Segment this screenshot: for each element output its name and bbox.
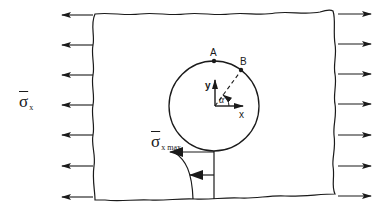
applied-stress-subscript: x bbox=[29, 103, 33, 112]
max-stress-label: σx max bbox=[151, 132, 181, 152]
y-axis-label: y bbox=[205, 80, 211, 91]
angle-alpha-label: α bbox=[219, 94, 225, 105]
point-b-marker bbox=[239, 68, 243, 72]
circular-hole bbox=[169, 61, 259, 151]
plate-with-hole-diagram: A B y x α bbox=[0, 0, 389, 209]
max-stress-subscript: x max bbox=[161, 143, 181, 152]
stress-distribution bbox=[170, 151, 214, 199]
right-load-arrows bbox=[338, 14, 371, 196]
point-a-marker bbox=[212, 59, 216, 63]
applied-stress-label: σx bbox=[19, 92, 33, 112]
applied-stress-symbol: σ bbox=[19, 92, 28, 111]
max-stress-symbol: σ bbox=[151, 132, 160, 151]
left-load-arrows bbox=[62, 15, 93, 197]
point-b-label: B bbox=[240, 56, 247, 67]
x-axis-label: x bbox=[239, 109, 244, 120]
point-a-label: A bbox=[210, 47, 217, 58]
